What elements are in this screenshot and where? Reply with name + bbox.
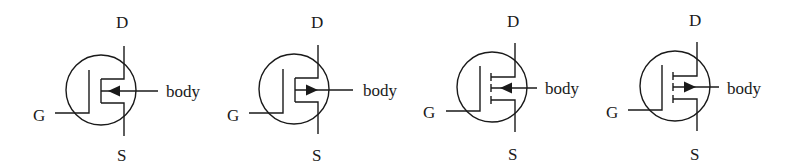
arrow-outward-icon: [684, 82, 696, 93]
drain-terminal: [101, 46, 124, 79]
mosfet-symbol-1: D S G body: [33, 13, 201, 165]
body-label: body: [727, 79, 762, 98]
gate-label: G: [227, 106, 239, 125]
mosfet-symbol-4: D S G body: [606, 11, 762, 164]
body-label: body: [166, 82, 201, 101]
arrow-outward-icon: [306, 85, 318, 96]
arrow-inward-icon: [500, 83, 512, 94]
mosfet-symbol-3: D S G body: [423, 12, 580, 164]
drain-label: D: [507, 12, 519, 31]
source-label: S: [508, 145, 517, 164]
body-label: body: [363, 81, 398, 100]
gate-terminal: [446, 66, 480, 111]
drain-label: D: [116, 13, 128, 32]
gate-label: G: [33, 106, 45, 125]
source-label: S: [690, 145, 699, 164]
gate-terminal: [55, 70, 89, 113]
drain-terminal: [491, 43, 515, 77]
source-label: S: [117, 146, 126, 165]
drain-label: D: [689, 11, 701, 30]
mosfet-symbols-figure: D S G body D S G body D S G body: [0, 0, 799, 165]
arrow-inward-icon: [108, 86, 120, 97]
drain-label: D: [311, 13, 323, 32]
drain-terminal: [673, 42, 697, 76]
source-label: S: [312, 146, 321, 165]
gate-terminal: [249, 69, 283, 113]
gate-label: G: [423, 103, 435, 122]
body-label: body: [545, 79, 580, 98]
mosfet-symbol-2: D S G body: [227, 13, 398, 165]
gate-label: G: [606, 103, 618, 122]
